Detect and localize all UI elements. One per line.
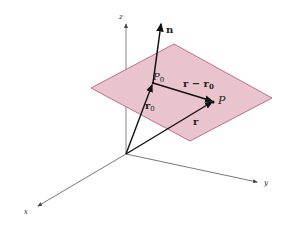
P-label: P [217,94,226,107]
y-axis [126,154,257,182]
point-P [211,100,214,103]
x-axis [38,154,126,206]
point-P0 [152,82,154,84]
z-axis-label: z [118,13,123,21]
plane-diagram: z y x n P0 r − r0 P r0 r [0,0,294,234]
plane [91,44,272,141]
r-label: r [193,116,199,127]
x-axis-label: x [24,208,28,216]
y-axis-label: y [263,179,269,187]
n-label: n [166,24,174,35]
